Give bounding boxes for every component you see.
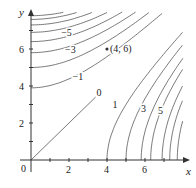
point-label: (4, 6) (110, 43, 132, 55)
contour-line-zero (31, 97, 96, 160)
contour-line-negative (31, 12, 122, 42)
contour-label: 5 (158, 105, 163, 116)
y-tick-label: 2 (19, 118, 24, 129)
annotated-point: (4, 6) (105, 43, 131, 55)
y-axis-label: y (18, 6, 24, 18)
contour-label: −1 (73, 71, 84, 82)
y-tick-label: 6 (19, 44, 24, 55)
contour-plot-svg: 246246 x y 0 0135−1−3−5 (4, 6) (0, 0, 196, 188)
contour-label: −3 (65, 44, 76, 55)
x-axis-arrow-icon (183, 157, 190, 163)
contour-line-positive (162, 86, 182, 160)
contour-line-positive (126, 45, 182, 160)
contour-label: 3 (141, 103, 146, 114)
contour-line-negative (31, 12, 63, 15)
x-tick-label: 4 (104, 164, 109, 175)
origin-label: 0 (21, 163, 26, 174)
x-axis-label: x (185, 165, 191, 177)
contour-label: 1 (113, 99, 118, 110)
contour-label: 0 (97, 87, 102, 98)
contour-labels: 0135−1−3−5 (61, 27, 163, 116)
x-tick-label: 2 (66, 164, 71, 175)
y-axis-arrow-icon (28, 9, 34, 16)
point-marker (105, 47, 108, 50)
contour-plot: 246246 x y 0 0135−1−3−5 (4, 6) (0, 0, 196, 188)
contour-lines (31, 12, 183, 160)
x-tick-label: 6 (142, 164, 147, 175)
y-tick-label: 4 (19, 81, 24, 92)
contour-label: −5 (61, 27, 72, 38)
contour-line-positive (177, 121, 182, 160)
